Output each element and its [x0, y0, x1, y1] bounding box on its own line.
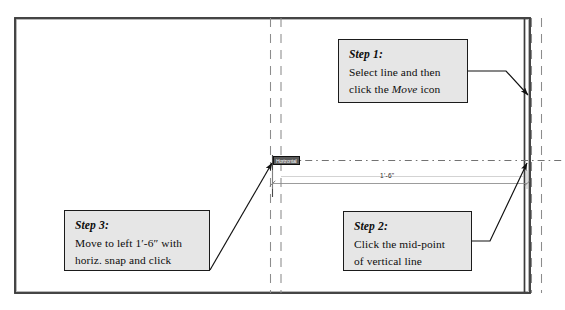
callout-step-1-heading: Step 1: — [349, 47, 458, 63]
callout-step-2-heading: Step 2: — [354, 219, 462, 235]
drawing-canvas: Horizontal 1'-6" Step 1: Select line and… — [0, 0, 565, 310]
right-wall-lines — [525, 18, 542, 293]
dimension-value-label: 1'-6" — [380, 172, 394, 179]
callout-step-1-line-2-pre: click the — [349, 83, 392, 95]
callout-step-1-move-emphasis: Move — [392, 83, 418, 95]
leader-arrow-step1 — [468, 71, 528, 95]
callout-step-3: Step 3: Move to left 1′-6″ with horiz. s… — [64, 210, 210, 271]
callout-step-2: Step 2: Click the mid-point of vertical … — [343, 211, 472, 271]
callout-step-3-line-1: Move to left 1′-6″ with — [75, 235, 200, 251]
dimension-line — [273, 170, 528, 189]
callout-step-3-heading: Step 3: — [75, 218, 200, 234]
callout-step-1: Step 1: Select line and then click the M… — [338, 39, 468, 103]
callout-step-2-line-1: Click the mid-point — [354, 236, 462, 252]
callout-step-1-line-2: click the Move icon — [349, 81, 458, 97]
callout-step-3-line-2: horiz. snap and click — [75, 252, 200, 268]
snap-tooltip: Horizontal — [273, 156, 300, 165]
callout-step-1-line-2-post: icon — [417, 83, 440, 95]
callout-step-1-line-1: Select line and then — [349, 64, 458, 80]
leader-arrow-step3 — [210, 163, 272, 270]
leader-arrow-step2 — [472, 163, 527, 241]
callout-step-2-line-2: of vertical line — [354, 253, 462, 269]
